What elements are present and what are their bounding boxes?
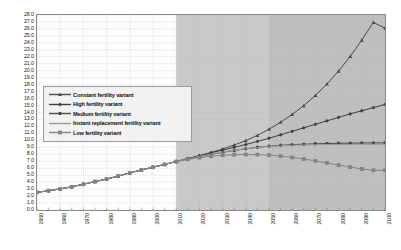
x-axis-tick-label: 2080 xyxy=(341,213,346,225)
x-axis-tick-label: 1980 xyxy=(109,213,114,225)
legend-item-label: High fertility variant xyxy=(73,101,122,107)
data-point-marker xyxy=(105,177,109,181)
y-axis-tick-label: 13.0 xyxy=(0,117,34,122)
data-point-marker xyxy=(198,156,202,160)
x-axis-tick-label: 1970 xyxy=(85,213,90,225)
x-axis-tick-label: 1950 xyxy=(39,213,44,225)
y-axis-tick-label: 19.0 xyxy=(0,75,34,80)
data-point-marker xyxy=(93,180,97,184)
y-axis-tick-label: 18.0 xyxy=(0,82,34,87)
y-axis-tick-label: 6.0 xyxy=(0,166,34,171)
legend: Constant fertility variantHigh fertility… xyxy=(43,86,192,142)
legend-item-label: Instant replacement fertility variant xyxy=(73,120,160,126)
legend-item-label: Constant fertility variant xyxy=(73,92,133,98)
data-point-marker xyxy=(244,153,248,157)
data-point-marker xyxy=(360,167,364,171)
data-point-marker xyxy=(58,131,62,135)
data-point-marker xyxy=(325,161,329,165)
y-axis-tick-label: 15.0 xyxy=(0,103,34,108)
data-point-marker xyxy=(290,156,294,160)
x-axis-tick-labels: 1950196019701980199020002010202020302040… xyxy=(36,213,386,249)
x-axis-tick-label: 2100 xyxy=(387,213,392,225)
data-point-marker xyxy=(314,159,318,163)
data-point-marker xyxy=(47,189,51,193)
y-axis-tick-label: 26.0 xyxy=(0,26,34,31)
legend-marker-icon xyxy=(47,100,73,109)
y-axis-tick-label: 4.0 xyxy=(0,179,34,184)
legend-marker-icon xyxy=(47,119,73,128)
legend-item: High fertility variant xyxy=(47,100,187,110)
y-axis-tick-label: 21.0 xyxy=(0,61,34,66)
x-axis-tick-label: 2000 xyxy=(155,213,160,225)
x-axis-tick-label: 2070 xyxy=(317,213,322,225)
data-point-marker xyxy=(348,165,352,169)
y-axis-tick-label: 0.0 xyxy=(0,207,34,212)
x-axis-tick-label: 2060 xyxy=(294,213,299,225)
data-point-marker xyxy=(58,102,62,106)
y-axis-tick-label: 24.0 xyxy=(0,40,34,45)
y-axis-tick-label: 2.0 xyxy=(0,193,34,198)
x-axis-tick-label: 1960 xyxy=(62,213,67,225)
legend-item-label: Medium fertility variant xyxy=(73,111,131,117)
data-point-marker xyxy=(37,190,39,194)
x-axis-tick-label: 2020 xyxy=(201,213,206,225)
x-axis-tick-label: 2090 xyxy=(364,213,369,225)
data-point-marker xyxy=(279,154,283,158)
data-point-marker xyxy=(58,187,62,191)
y-axis-tick-label: 16.0 xyxy=(0,96,34,101)
data-point-marker xyxy=(140,168,144,172)
data-point-marker xyxy=(128,171,132,175)
data-point-marker xyxy=(209,154,213,158)
data-point-marker xyxy=(163,163,167,167)
legend-marker-icon xyxy=(47,109,73,118)
y-axis-tick-label: 23.0 xyxy=(0,47,34,52)
y-axis-tick-label: 8.0 xyxy=(0,152,34,157)
y-axis-tick-label: 3.0 xyxy=(0,186,34,191)
x-axis-tick-label: 1990 xyxy=(132,213,137,225)
y-axis-tick-label: 27.0 xyxy=(0,19,34,24)
data-point-marker xyxy=(58,112,61,115)
legend-marker-icon xyxy=(47,128,73,137)
y-axis-tick-label: 14.0 xyxy=(0,110,34,115)
data-point-marker xyxy=(70,185,74,189)
y-axis-tick-label: 1.0 xyxy=(0,200,34,205)
data-point-marker xyxy=(256,153,260,157)
data-point-marker xyxy=(302,157,306,161)
legend-item: Constant fertility variant xyxy=(47,90,187,100)
x-axis-tick-label: 2030 xyxy=(225,213,230,225)
legend-item-label: Low fertility variant xyxy=(73,130,121,136)
data-point-marker xyxy=(221,153,225,157)
y-axis-tick-label: 28.0 xyxy=(0,12,34,17)
data-point-marker xyxy=(290,143,293,146)
data-point-marker xyxy=(151,165,155,169)
legend-item: Medium fertility variant xyxy=(47,109,187,119)
x-axis-tick-label: 2040 xyxy=(248,213,253,225)
x-axis-tick-label: 2050 xyxy=(271,213,276,225)
data-point-marker xyxy=(174,160,178,164)
data-point-marker xyxy=(267,153,271,157)
data-point-marker xyxy=(82,182,86,186)
y-axis-tick-label: 5.0 xyxy=(0,172,34,177)
data-point-marker xyxy=(383,168,385,172)
y-axis-tick-label: 25.0 xyxy=(0,33,34,38)
x-axis-tick-label: 2010 xyxy=(178,213,183,225)
data-point-marker xyxy=(232,153,236,157)
y-axis-tick-label: 11.0 xyxy=(0,131,34,136)
legend-item: Low fertility variant xyxy=(47,128,187,138)
population-projection-chart: 0.01.02.03.04.05.06.07.08.09.010.011.012… xyxy=(0,0,401,250)
data-point-marker xyxy=(186,158,190,162)
y-axis-tick-label: 20.0 xyxy=(0,68,34,73)
y-axis-tick-label: 22.0 xyxy=(0,54,34,59)
y-axis-tick-label: 7.0 xyxy=(0,159,34,164)
y-axis-tick-label: 17.0 xyxy=(0,89,34,94)
legend-marker-icon xyxy=(47,90,73,99)
y-axis-tick-label: 9.0 xyxy=(0,145,34,150)
y-axis-tick-labels: 0.01.02.03.04.05.06.07.08.09.010.011.012… xyxy=(0,14,34,211)
data-point-marker xyxy=(372,168,376,172)
data-point-marker xyxy=(116,174,120,178)
data-point-marker xyxy=(337,163,341,167)
legend-item: Instant replacement fertility variant xyxy=(47,119,187,129)
y-axis-tick-label: 10.0 xyxy=(0,138,34,143)
y-axis-tick-label: 12.0 xyxy=(0,124,34,129)
